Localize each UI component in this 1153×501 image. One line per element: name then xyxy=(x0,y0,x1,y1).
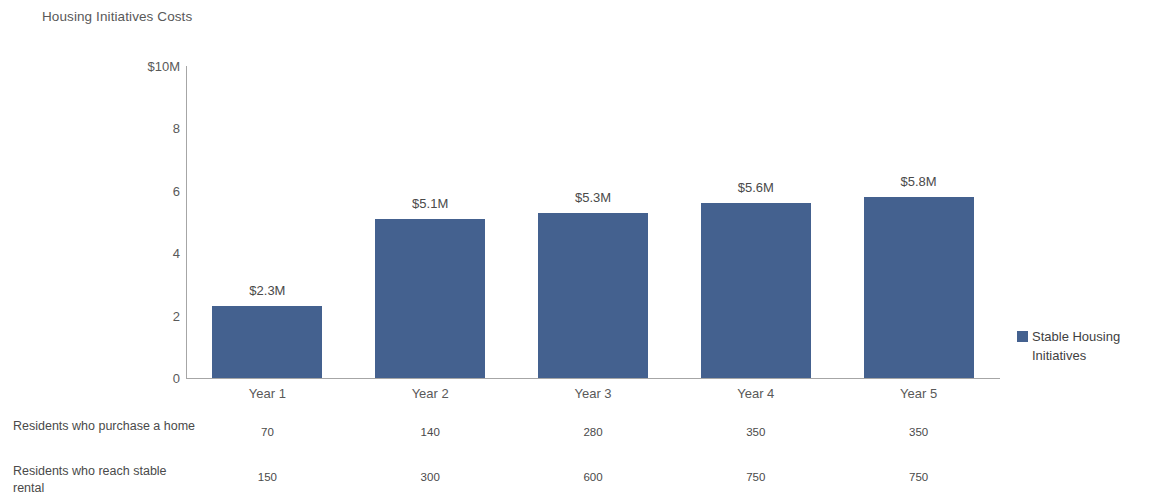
bar-data-label: $5.6M xyxy=(738,180,774,195)
table-cell-value: 600 xyxy=(583,471,602,483)
table-cell-value: 750 xyxy=(909,471,928,483)
table-cell-value: 350 xyxy=(909,426,928,438)
y-axis-tick-label: $10M xyxy=(120,59,180,74)
table-cell-value: 70 xyxy=(261,426,274,438)
bar[interactable] xyxy=(701,203,811,378)
chart-legend: Stable Housing Initiatives xyxy=(1017,327,1153,365)
y-axis-tick-label: 0 xyxy=(120,371,180,386)
y-axis-tick-label: 2 xyxy=(120,308,180,323)
x-axis-line xyxy=(186,378,1000,379)
table-row: Residents who purchase a home70140280350… xyxy=(0,412,1153,457)
y-axis-tick-label: 6 xyxy=(120,183,180,198)
bar-data-label: $5.3M xyxy=(575,190,611,205)
bar-data-label: $2.3M xyxy=(249,283,285,298)
table-row: Residents who reach stable rental1503006… xyxy=(0,457,1153,501)
bar-data-label: $5.1M xyxy=(412,196,448,211)
x-axis-category-label: Year 5 xyxy=(900,386,937,401)
table-row-label: Residents who reach stable rental xyxy=(13,463,198,497)
table-cell-value: 150 xyxy=(258,471,277,483)
table-cell-value: 750 xyxy=(746,471,765,483)
bar[interactable] xyxy=(864,197,974,378)
data-table: Residents who purchase a home70140280350… xyxy=(0,412,1153,501)
bar[interactable] xyxy=(538,213,648,378)
table-cell-value: 140 xyxy=(421,426,440,438)
bar[interactable] xyxy=(375,219,485,378)
legend-label: Stable Housing Initiatives xyxy=(1032,327,1152,365)
x-axis-category-label: Year 2 xyxy=(412,386,449,401)
table-cell-value: 280 xyxy=(583,426,602,438)
x-axis-category-label: Year 1 xyxy=(249,386,286,401)
chart-container: Housing Initiatives Costs 02468$10M $2.3… xyxy=(0,0,1153,501)
x-axis-category-label: Year 3 xyxy=(574,386,611,401)
table-cell-value: 300 xyxy=(421,471,440,483)
y-axis-tick-label: 4 xyxy=(120,246,180,261)
plot-area: $2.3M$5.1M$5.3M$5.6M$5.8M xyxy=(186,66,1000,378)
legend-swatch-icon xyxy=(1017,331,1028,342)
table-row-label: Residents who purchase a home xyxy=(13,418,198,435)
bar[interactable] xyxy=(212,306,322,378)
x-axis-category-label: Year 4 xyxy=(737,386,774,401)
bar-data-label: $5.8M xyxy=(901,174,937,189)
y-axis-tick-label: 8 xyxy=(120,121,180,136)
table-cell-value: 350 xyxy=(746,426,765,438)
